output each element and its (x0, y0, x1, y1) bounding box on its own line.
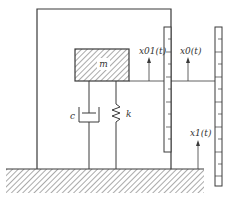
mass-label: m (99, 59, 108, 69)
arrow-x0 (186, 57, 190, 81)
damper (79, 81, 99, 169)
spring-label: k (126, 109, 131, 119)
ground (6, 169, 204, 193)
frame (37, 9, 171, 169)
x1-label: x1(t) (190, 128, 212, 138)
arrow-x01 (147, 57, 151, 81)
vibration-diagram: m c k (0, 0, 234, 203)
scale-right (215, 27, 222, 186)
x0-label: x0(t) (180, 46, 202, 56)
spring (112, 81, 120, 169)
damper-label: c (70, 111, 75, 121)
mass-block: m (75, 49, 129, 81)
x01-label: x01(t) (139, 46, 167, 56)
arrow-x1 (196, 140, 200, 169)
